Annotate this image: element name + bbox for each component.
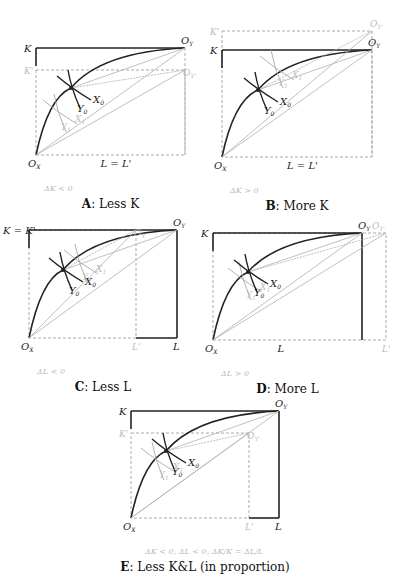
label-l-prime-main: L' [244, 522, 253, 532]
label-k-main: K [23, 43, 32, 54]
label-x0-sub: 0 [92, 281, 96, 288]
label-origin-x: OX [123, 521, 136, 533]
caption-text: : Less K [91, 197, 140, 211]
caption-letter: C [75, 380, 85, 394]
label-k: K [209, 45, 218, 56]
label-k: K [200, 228, 209, 239]
label-origin-y-main: O [181, 35, 189, 46]
label-y1: Y1 [82, 272, 92, 283]
label-origin-y-sub: Y [181, 222, 186, 229]
label-origin-y-main: O [368, 37, 376, 48]
label-k-prime-main: K' [118, 429, 128, 439]
label-origin-y-prime-sub: Y' [141, 232, 147, 239]
diagonal-original [36, 48, 185, 155]
isoquant-1-x-curve [43, 100, 77, 124]
label-origin-y: OY [181, 35, 194, 47]
label-origin-y-sub: Y [376, 42, 381, 49]
label-origin-x: OX [214, 160, 227, 172]
caption-letter: D [256, 382, 266, 396]
label-l-prime-main: L' [381, 344, 390, 354]
label-y1: Y1 [61, 122, 71, 133]
label-y1-sub: 1 [165, 474, 169, 481]
label-y0: Y0 [69, 285, 80, 297]
label-origin-y-prime-sub: Y' [190, 72, 196, 79]
label-x0-sub: 0 [195, 462, 199, 469]
panel-d: KOXOYOY'LL'X0Y0X1Y1ΔL > 0D: More L [200, 220, 390, 396]
ray-to-oy [166, 411, 279, 451]
panel-caption: E: Less K&L (in proportion) [120, 560, 289, 574]
label-origin-y-prime: OY' [247, 431, 260, 442]
label-k-prime: K' [23, 66, 33, 76]
label-origin-x-sub: X [35, 163, 41, 170]
isoquant-0-x-curve [57, 76, 91, 100]
label-origin-y-prime: OY' [372, 221, 385, 232]
label-l-prime: L' [381, 344, 390, 354]
caption-letter: E [120, 560, 129, 574]
caption-text: : Less L [84, 380, 131, 394]
isoquant-0-x-curve [244, 78, 278, 102]
label-k-prime: K' [118, 429, 128, 439]
delta-annotation: ΔK < 0, ΔL < 0, ΔK/K = ΔL/L [144, 547, 263, 556]
label-origin-y-prime: OY' [183, 68, 196, 79]
label-l: L = L' [286, 160, 318, 171]
panel-caption: B: More K [265, 199, 329, 213]
label-x0-sub: 0 [100, 99, 104, 106]
label-x1: X1 [74, 114, 85, 125]
label-x0-sub: 0 [277, 283, 281, 290]
label-k-prime: K' [209, 27, 219, 37]
label-origin-y: OY [368, 37, 381, 49]
label-k-prime-main: K' [209, 27, 219, 37]
label-origin-x-main: O [21, 341, 29, 352]
diagonal-original [29, 230, 177, 338]
isoquant-0-x-curve [152, 439, 186, 463]
label-l-main: L = L' [100, 158, 132, 169]
label-origin-y-sub: Y [366, 225, 371, 232]
label-x1: X1 [95, 264, 106, 275]
label-l: L [274, 521, 282, 532]
label-l-main: L [172, 341, 180, 352]
ray-to-oy [71, 48, 185, 88]
panel-caption: C: Less L [75, 380, 132, 394]
label-origin-x: OX [205, 343, 218, 355]
label-y0-sub: 0 [261, 292, 265, 299]
label-origin-y-main: O [358, 220, 366, 231]
diagonal-original [222, 50, 372, 157]
label-x0: X0 [269, 278, 281, 290]
isoquant-0-x-curve [234, 260, 268, 284]
label-y0-sub: 0 [76, 290, 80, 297]
ray-to-oy [248, 233, 362, 272]
label-origin-y: OY [275, 398, 288, 410]
label-origin-x: OX [21, 341, 34, 353]
label-origin-y-prime-sub: Y' [254, 435, 260, 442]
panel-caption: D: More L [256, 382, 318, 396]
delta-annotation: ΔL > 0 [220, 369, 249, 378]
label-k-main: K [209, 45, 218, 56]
label-y1-sub: 1 [88, 276, 92, 283]
label-l-prime: L' [244, 522, 253, 532]
panel-e: KK'OXOYOY'LL'X0Y0X1Y1ΔK < 0, ΔL < 0, ΔK/… [118, 398, 290, 574]
diagonal-new [213, 233, 386, 340]
label-x1-sub: 1 [298, 74, 302, 81]
panel-c: K = K'OXOYOY'LL'X0Y0X1Y1ΔL < 0C: Less L [2, 217, 186, 394]
delta-annotation: ΔK > 0 [229, 186, 259, 195]
delta-annotation: ΔL < 0 [36, 367, 65, 376]
diagram-canvas: KK'OXOYOY'L = L'X0Y0X1Y1ΔK < 0A: Less KK… [0, 0, 407, 580]
label-origin-x-sub: X [212, 348, 218, 355]
caption-text: : More K [276, 199, 330, 213]
delta-annotation: ΔK < 0 [43, 184, 73, 193]
diagonal-original [213, 233, 362, 340]
label-x1-sub: 1 [102, 268, 106, 275]
label-origin-y-sub: Y [283, 403, 288, 410]
tangency-point [246, 270, 250, 274]
label-k: K [23, 43, 32, 54]
panel-caption: A: Less K [81, 197, 140, 211]
label-l-prime: L' [131, 342, 140, 352]
label-k-prime-main: K' [23, 66, 33, 76]
label-l: L [172, 341, 180, 352]
label-origin-y-prime-sub: Y' [379, 225, 385, 232]
caption-letter: B [265, 199, 275, 213]
label-origin-y-prime-sub: Y' [377, 23, 383, 30]
label-origin-x-sub: X [28, 346, 34, 353]
label-x1: X1 [172, 462, 183, 473]
tangency-point [164, 449, 168, 453]
